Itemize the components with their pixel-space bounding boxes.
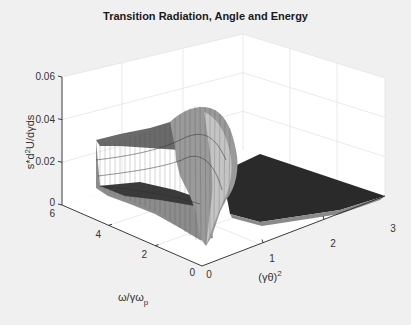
- y-axis-label: ω/γωp: [118, 291, 149, 307]
- x-tick-2: 2: [330, 238, 336, 249]
- x-axis-label: (γθ)2: [258, 269, 282, 283]
- y-tick-0: 0: [189, 267, 195, 278]
- z-tick-0.06: 0.06: [36, 71, 56, 82]
- y-tick-6: 6: [49, 208, 55, 219]
- x-tick-0: 0: [206, 269, 212, 280]
- y-tick-4: 4: [95, 229, 101, 240]
- x-tick-1: 1: [269, 253, 275, 264]
- matlab-figure: Transition Radiation, Angle and Energy: [0, 0, 411, 325]
- y-tick-2: 2: [141, 249, 147, 260]
- z-axis-label: s*d2U/dγds: [23, 114, 36, 169]
- plot-3d: 0.06 0.04 0.02 0 6 4 2 0 0 1 2 3 s*d2U/d…: [0, 0, 411, 325]
- x-tick-3: 3: [390, 223, 396, 234]
- z-tick-0.04: 0.04: [36, 114, 56, 125]
- z-tick-0.02: 0.02: [36, 156, 56, 167]
- z-tick-0: 0: [49, 197, 55, 208]
